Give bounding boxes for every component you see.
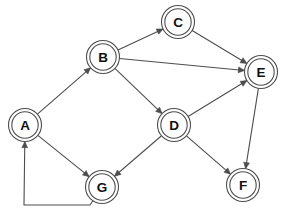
edge-line [119, 59, 244, 71]
graph-canvas: ABCDEFG [0, 0, 282, 214]
edge-line [192, 31, 247, 64]
graph-node-a[interactable]: A [9, 109, 42, 142]
node-label: A [20, 118, 30, 133]
edge-line [38, 135, 89, 176]
arrowhead-icon [156, 29, 163, 34]
node-label: C [173, 15, 183, 30]
arrowhead-icon [238, 67, 244, 73]
edge-d-to-f [186, 136, 230, 174]
edge-d-to-g [115, 136, 162, 176]
edge-b-to-e [119, 59, 244, 73]
edge-line [24, 141, 93, 205]
arrowhead-icon [240, 81, 247, 87]
graph-node-g[interactable]: G [86, 171, 119, 204]
graph-node-e[interactable]: E [245, 56, 278, 89]
graph-node-f[interactable]: F [227, 169, 260, 202]
edge-d-to-e [188, 81, 247, 117]
edge-line [37, 68, 90, 114]
edge-a-to-b [37, 68, 90, 114]
edge-line [246, 88, 259, 168]
node-label: E [256, 65, 265, 80]
graph-node-c[interactable]: C [162, 6, 195, 39]
graph-node-b[interactable]: B [87, 41, 120, 74]
node-label: D [169, 118, 179, 133]
edge-line [188, 81, 247, 117]
edge-line [186, 136, 230, 174]
edges-layer [22, 29, 259, 205]
node-label: G [97, 180, 108, 195]
graph-node-d[interactable]: D [158, 109, 191, 142]
node-label: F [239, 178, 247, 193]
edge-b-to-d [115, 68, 162, 113]
edge-a-to-g [38, 135, 89, 176]
arrowhead-icon [240, 58, 247, 64]
graph-svg: ABCDEFG [0, 0, 282, 214]
node-label: B [98, 50, 108, 65]
arrowhead-icon [22, 141, 28, 147]
edge-line [118, 29, 163, 50]
arrowhead-icon [244, 162, 250, 169]
edge-c-to-e [192, 31, 247, 64]
edge-line [115, 68, 162, 113]
edge-b-to-c [118, 29, 163, 50]
edge-line [115, 136, 162, 176]
edge-e-to-f [244, 88, 259, 168]
